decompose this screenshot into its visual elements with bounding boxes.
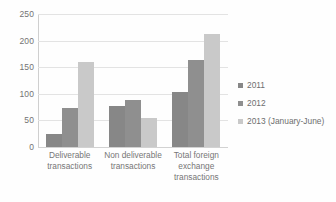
legend-swatch-icon [238,83,243,88]
x-category-label-line: transactions [97,161,168,172]
bar-2013-january-june--cat3 [204,34,220,147]
x-category-label-2: Non deliverabletransactions [97,150,168,172]
x-category-label-3: Total foreignexchangetransactions [161,150,232,183]
y-tick-label-150: 150 [4,63,34,72]
legend-item-2013-january-june-[interactable]: 2013 (January-June) [238,114,334,129]
bar-chart-figure: 250200150100500 DeliverabletransactionsN… [0,0,336,202]
legend-item-2012[interactable]: 2012 [238,96,334,111]
legend-item-label: 2011 [247,81,265,90]
legend-swatch-icon [238,119,243,124]
y-tick-label-0: 0 [4,143,34,152]
y-axis-tick-labels: 250200150100500 [0,0,34,202]
bar-2012-cat2 [125,100,141,147]
gridline-0 [38,147,228,148]
y-tick-label-100: 100 [4,90,34,99]
x-category-label-line: Deliverable [34,150,105,161]
bar-2011-cat1 [46,134,62,147]
x-category-label-line: transactions [34,161,105,172]
bar-2013-january-june--cat2 [141,118,157,147]
legend-item-label: 2012 [247,99,266,108]
bar-2011-cat3 [172,92,188,147]
x-category-label-1: Deliverabletransactions [34,150,105,172]
bar-2012-cat3 [188,60,204,147]
x-category-label-line: Total foreign [161,150,232,161]
bar-2011-cat2 [109,106,125,147]
x-axis-category-labels: DeliverabletransactionsNon deliverabletr… [38,150,228,200]
x-category-label-line: exchange [161,161,232,172]
bar-2013-january-june--cat1 [78,62,94,147]
legend-item-label: 2013 (January-June) [247,117,324,126]
bar-2012-cat1 [62,108,78,147]
legend-item-2011[interactable]: 2011 [238,78,334,93]
legend-swatch-icon [238,101,243,106]
y-tick-label-250: 250 [4,10,34,19]
plot-area [38,14,228,147]
chart-legend: 201120122013 (January-June) [238,78,334,132]
x-category-label-line: Non deliverable [97,150,168,161]
y-tick-label-50: 50 [4,116,34,125]
bars-layer [38,14,228,147]
y-tick-label-200: 200 [4,37,34,46]
x-category-label-line: transactions [161,172,232,183]
